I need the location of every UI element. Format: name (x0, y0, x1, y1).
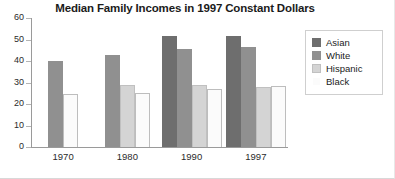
bar-group: 1970 (48, 18, 78, 147)
bar-group-bars (105, 18, 150, 147)
bar-group-bars (226, 18, 286, 147)
y-tick-mark (26, 104, 31, 105)
chart-title: Median Family Incomes in 1997 Constant D… (40, 2, 330, 14)
y-axis-tick: 0 (31, 147, 32, 148)
y-tick-label: 40 (14, 55, 24, 65)
bar (48, 61, 63, 147)
bar (135, 93, 150, 147)
bar-group-bars (162, 18, 222, 147)
bar (207, 89, 222, 147)
legend-swatch-icon (312, 51, 321, 60)
legend-label: Hispanic (326, 64, 362, 74)
y-tick-mark (26, 83, 31, 84)
y-tick-mark (26, 18, 31, 19)
legend-item: Hispanic (312, 62, 377, 75)
bar-group: 1997 (226, 18, 286, 147)
y-tick-label: 60 (14, 12, 24, 22)
legend-swatch-icon (312, 64, 321, 73)
bar (105, 55, 120, 147)
bar (162, 36, 177, 147)
bar (63, 94, 78, 147)
y-axis-tick: 30 (31, 83, 32, 84)
y-tick-mark (26, 40, 31, 41)
y-axis-tick: 40 (31, 61, 32, 62)
x-tick-label: 1980 (105, 151, 150, 162)
y-tick-label: 50 (14, 34, 24, 44)
y-tick-label: 20 (14, 98, 24, 108)
bar (256, 87, 271, 147)
plot-area: 0102030405060 1970198019901997 (31, 18, 288, 148)
legend-label: White (326, 51, 350, 61)
legend-item: Asian (312, 36, 377, 49)
x-axis-line (31, 147, 288, 148)
legend-swatch-icon (312, 77, 321, 86)
legend-item: Black (312, 75, 377, 88)
legend-swatch-icon (312, 38, 321, 47)
bar (241, 47, 256, 147)
x-tick-label: 1970 (48, 151, 78, 162)
y-tick-mark (26, 61, 31, 62)
y-axis-tick: 10 (31, 126, 32, 127)
y-axis-tick: 60 (31, 18, 32, 19)
bar (177, 49, 192, 147)
legend-label: Asian (326, 38, 350, 48)
y-tick-mark (26, 147, 31, 148)
bar-group: 1990 (162, 18, 222, 147)
y-axis-tick: 50 (31, 40, 32, 41)
legend-item: White (312, 49, 377, 62)
bar (120, 85, 135, 147)
x-tick-label: 1990 (162, 151, 222, 162)
chart-container: Median Family Incomes in 1997 Constant D… (0, 0, 395, 179)
bar-group-bars (48, 18, 78, 147)
x-tick-label: 1997 (226, 151, 286, 162)
y-tick-label: 0 (19, 141, 24, 151)
y-tick-label: 30 (14, 77, 24, 87)
bar (192, 85, 207, 147)
y-tick-mark (26, 126, 31, 127)
y-tick-label: 10 (14, 120, 24, 130)
chart-legend: AsianWhiteHispanicBlack (305, 30, 383, 95)
bar (226, 36, 241, 147)
legend-label: Black (326, 77, 349, 87)
y-axis-tick: 20 (31, 104, 32, 105)
bar (271, 86, 286, 147)
bar-group: 1980 (105, 18, 150, 147)
